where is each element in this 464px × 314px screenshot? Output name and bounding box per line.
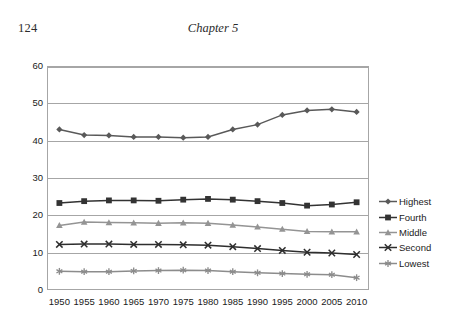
data-point-diamond [254,122,260,128]
y-axis-tick-label: 60 [1,60,43,71]
data-point-square [255,198,261,204]
x-axis-tick-label: 1995 [272,296,293,307]
data-point-diamond [131,134,137,140]
data-point-square [81,198,87,204]
y-axis-tick-label: 40 [1,135,43,146]
legend-item-second[interactable]: Second [378,240,464,255]
legend-marker-triangle-icon [378,226,398,239]
y-axis-tick-label: 10 [1,247,43,258]
series-highest [56,106,359,141]
legend-marker-square-icon [378,211,398,224]
data-point-diamond [385,199,391,205]
data-point-square [156,198,162,204]
line-chart-figure: 0102030405060 19501955196019651970197519… [0,46,464,314]
chart-series-layer [47,66,369,290]
data-point-diamond [230,126,236,132]
data-point-square [205,196,211,202]
data-point-diamond [155,134,161,140]
series-fourth [56,196,359,209]
series-line [59,109,356,137]
x-axis-tick-label: 2000 [296,296,317,307]
x-axis-tick-label: 1960 [98,296,119,307]
legend-marker-cross-icon [378,241,398,254]
data-point-diamond [329,106,335,112]
legend-marker-diamond-icon [378,195,398,208]
x-axis-tick-label: 1980 [197,296,218,307]
legend-item-middle[interactable]: Middle [378,225,464,240]
x-axis-tick-label: 1965 [123,296,144,307]
data-point-square [354,199,360,205]
y-axis-tick-label: 0 [1,284,43,295]
legend-label: Middle [399,227,427,238]
series-second [56,241,360,258]
legend-label: Fourth [399,212,426,223]
data-point-square [329,202,335,208]
data-point-square [106,198,112,204]
data-point-square [385,214,391,220]
data-point-square [279,200,285,206]
data-point-diamond [56,126,62,132]
legend-marker-asterisk-icon [378,257,398,270]
x-axis-tick-label: 1955 [74,296,95,307]
data-point-diamond [205,134,211,140]
x-axis-tick-label: 1985 [222,296,243,307]
legend-label: Highest [399,196,431,207]
data-point-diamond [81,132,87,138]
x-axis-tick-label: 2005 [321,296,342,307]
running-head-chapter-title: Chapter 5 [0,21,464,36]
data-point-square [230,197,236,203]
legend-item-lowest[interactable]: Lowest [378,256,464,271]
x-axis-tick-label: 1950 [49,296,70,307]
legend-label: Lowest [399,258,429,269]
y-axis: 0102030405060 [0,66,43,290]
x-axis-tick-label: 1970 [148,296,169,307]
series-middle [56,219,360,235]
data-point-diamond [180,135,186,141]
data-point-square [131,198,137,204]
data-point-diamond [106,132,112,138]
x-axis-tick-label: 1975 [173,296,194,307]
data-point-square [180,197,186,203]
y-axis-tick-label: 30 [1,172,43,183]
x-axis-tick-label: 1990 [247,296,268,307]
legend-item-highest[interactable]: Highest [378,194,464,209]
data-point-square [56,200,62,206]
y-axis-tick-label: 50 [1,97,43,108]
legend-item-fourth[interactable]: Fourth [378,209,464,224]
legend-label: Second [399,242,431,253]
data-point-square [304,203,310,209]
data-point-diamond [354,109,360,115]
page-header: 124 Chapter 5 [0,0,464,46]
series-lowest [56,267,359,281]
x-axis: 1950195519601965197019751980198519901995… [47,296,369,312]
y-axis-tick-label: 20 [1,209,43,220]
data-point-diamond [279,112,285,118]
data-point-diamond [304,107,310,113]
x-axis-tick-label: 2010 [346,296,367,307]
chart-legend: HighestFourthMiddleSecondLowest [378,194,464,271]
